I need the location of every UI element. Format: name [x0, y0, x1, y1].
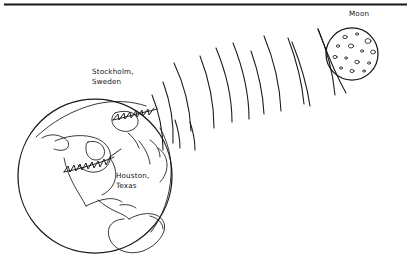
wavefront-14	[318, 29, 346, 93]
houston-ground-station	[64, 149, 121, 172]
wavefront-7	[216, 48, 232, 122]
earth-limb-detail-2	[128, 133, 139, 148]
figure-canvas: Stockholm, Sweden Houston, Texas Moon	[0, 0, 411, 272]
coast-us-west	[64, 158, 86, 206]
coast-hudson-bay	[86, 141, 105, 160]
crater-10	[355, 60, 359, 64]
coast-caribbean	[120, 205, 136, 208]
wavefront-13	[318, 29, 335, 95]
wavefront-6	[200, 56, 214, 128]
crater-12	[340, 67, 343, 69]
earth-limb-detail-1	[139, 141, 150, 164]
crater-4	[336, 45, 339, 48]
label-houston-line1: Houston,	[116, 171, 149, 180]
label-moon: Moon	[349, 9, 369, 18]
houston-beam-tip	[110, 149, 121, 157]
coast-south-america	[108, 214, 164, 253]
wavefront-12	[292, 42, 310, 106]
earth-coastlines	[36, 102, 171, 253]
wavefront-11	[288, 38, 304, 104]
crater-8	[333, 55, 337, 58]
figure-root: Stockholm, Sweden Houston, Texas Moon	[0, 0, 411, 272]
radio-wavefronts	[152, 29, 346, 150]
label-houston-line2: Texas	[115, 181, 137, 190]
crater-14	[363, 70, 366, 72]
crater-3	[365, 39, 371, 44]
wavefront-5	[174, 63, 191, 131]
crater-2	[356, 33, 359, 35]
moon-body	[326, 28, 378, 80]
wavefront-8	[233, 43, 249, 119]
wavefront-9	[251, 51, 264, 114]
crater-13	[350, 69, 354, 72]
crater-11	[368, 62, 371, 64]
crater-5	[348, 44, 353, 48]
wavefront-1	[152, 95, 163, 150]
crater-6	[361, 50, 364, 52]
coast-central-america	[98, 200, 129, 219]
wavefront-3	[175, 120, 180, 148]
crater-7	[371, 50, 376, 54]
crater-9	[345, 57, 348, 59]
crater-1	[343, 35, 347, 38]
moon-craters	[333, 33, 375, 73]
wavefront-10	[264, 36, 281, 111]
wavefront-2	[163, 82, 173, 143]
coast-canada	[55, 136, 111, 173]
label-stockholm-line1: Stockholm,	[92, 67, 134, 76]
label-stockholm-line2: Sweden	[92, 77, 121, 86]
